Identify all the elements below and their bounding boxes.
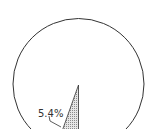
slice-label: 5.4% [38,108,63,119]
pie-chart: 5.4% [0,0,157,129]
